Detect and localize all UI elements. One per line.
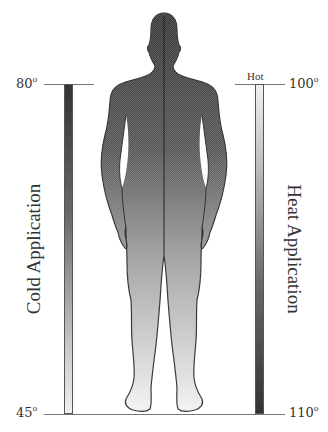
right-bottom-value: 110o [289,406,319,419]
right-top-value: 100o [289,77,319,90]
body-figure [0,0,328,432]
hot-marker-label: Hot [247,70,264,82]
body-silhouette [101,13,227,411]
cold-gradient-bar [64,84,73,414]
heat-application-label: Heat Application [283,169,305,329]
baseline [44,414,285,415]
heat-gradient-bar [255,84,264,414]
cold-application-label: Cold Application [23,169,45,329]
left-bottom-value: 45o [16,406,37,419]
left-top-value: 80o [16,77,37,90]
